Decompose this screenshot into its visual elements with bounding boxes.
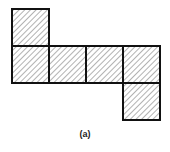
net-square-0: [12, 9, 49, 46]
figure-caption: (a): [0, 129, 170, 139]
net-square-3: [86, 46, 123, 83]
net-squares: [12, 9, 160, 120]
net-square-2: [49, 46, 86, 83]
net-square-5: [123, 83, 160, 120]
net-square-4: [123, 46, 160, 83]
net-square-1: [12, 46, 49, 83]
